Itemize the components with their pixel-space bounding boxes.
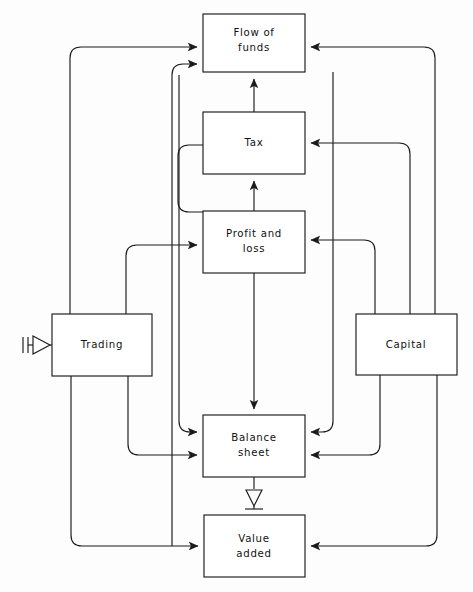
- edge-tax-to-balance-sheet: [311, 375, 380, 455]
- edge-flow-of-funds-to-balance-sheet: [311, 72, 333, 432]
- node-capital[interactable]: Capital: [356, 314, 457, 375]
- open-arrow-right-icon: [33, 336, 50, 354]
- node-flow-of-funds-label-line1: Flow of: [233, 27, 274, 38]
- node-balance-sheet[interactable]: Balance sheet: [203, 415, 305, 477]
- node-profit-and-loss-label-line2: loss: [243, 243, 265, 254]
- edge-trading-to-balance-sheet: [128, 376, 197, 455]
- open-arrow-down-icon: [246, 490, 262, 506]
- node-flow-of-funds[interactable]: Flow of funds: [203, 14, 305, 72]
- node-capital-label-line1: Capital: [386, 339, 427, 350]
- node-value-added-label-line2: added: [236, 548, 271, 559]
- node-balance-sheet-label-line2: sheet: [238, 447, 270, 458]
- node-profit-and-loss-box[interactable]: [203, 211, 305, 273]
- node-profit-and-loss[interactable]: Profit and loss: [203, 211, 305, 273]
- output-terminator-symbol: [245, 490, 263, 509]
- node-tax-label-line1: Tax: [244, 137, 264, 148]
- node-profit-and-loss-label-line1: Profit and: [226, 228, 282, 239]
- node-flow-of-funds-label-line2: funds: [238, 42, 270, 53]
- node-trading-label-line1: Trading: [80, 339, 123, 350]
- node-tax[interactable]: Tax: [203, 112, 305, 174]
- flow-of-funds-diagram: Flow of funds Tax Profit and loss Tradin…: [0, 0, 473, 592]
- edge-capital-to-profit-and-loss: [311, 240, 375, 314]
- edge-capital-to-tax: [311, 143, 410, 314]
- edge-capital-to-value-added: [311, 375, 437, 546]
- node-trading[interactable]: Trading: [52, 314, 152, 376]
- diagram-canvas: Flow of funds Tax Profit and loss Tradin…: [0, 0, 473, 592]
- input-terminator-symbol: [23, 336, 52, 354]
- node-value-added-box[interactable]: [204, 515, 305, 577]
- node-balance-sheet-label-line1: Balance: [231, 432, 277, 443]
- edge-flow-of-funds-left-to-balance-sheet: [179, 75, 197, 432]
- node-balance-sheet-box[interactable]: [203, 415, 305, 477]
- edge-tax-left-loop-to-profit-and-loss: [178, 145, 203, 212]
- node-value-added-label-line1: Value: [238, 533, 269, 544]
- edge-capital-to-flow-of-funds: [311, 47, 435, 314]
- edge-value-added-to-flow-of-funds: [172, 64, 197, 546]
- node-value-added[interactable]: Value added: [204, 515, 305, 577]
